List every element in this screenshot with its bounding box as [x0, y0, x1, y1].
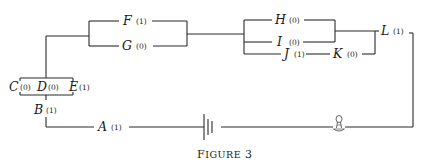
svg-text:(0): (0) [48, 83, 59, 92]
svg-text:(0): (0) [347, 50, 358, 59]
svg-text:(1): (1) [46, 106, 57, 115]
svg-text:(1): (1) [393, 27, 404, 36]
svg-text:(0): (0) [136, 42, 147, 51]
label-a: A (1) [97, 119, 122, 134]
label-e: E (1) [68, 79, 90, 94]
svg-text:(1): (1) [136, 17, 147, 26]
wire-battery-lamp [221, 33, 413, 127]
svg-text:(0): (0) [20, 83, 31, 92]
svg-text:B: B [33, 102, 43, 117]
label-l: L (1) [380, 23, 404, 38]
wire-fg-to-cde [46, 36, 89, 78]
label-d: D (0) [36, 79, 59, 94]
svg-text:C: C [9, 79, 19, 94]
label-c: C (0) [9, 79, 31, 94]
light-bulb-icon [334, 116, 345, 132]
svg-text:J: J [281, 46, 290, 61]
circuit-diagram: F (1) G (0) C (0) D (0) E (1) B (1) A (1… [0, 0, 423, 167]
svg-text:I: I [276, 34, 283, 49]
svg-text:(0): (0) [289, 16, 300, 25]
svg-text:H: H [274, 12, 287, 27]
svg-text:K: K [332, 46, 343, 61]
svg-text:(1): (1) [294, 50, 305, 59]
label-b: B (1) [33, 102, 57, 117]
svg-text:(0): (0) [289, 38, 300, 47]
label-j: J (1) [281, 46, 305, 61]
label-h: H (0) [274, 12, 300, 27]
svg-text:L: L [380, 23, 389, 38]
label-f: F (1) [122, 13, 147, 28]
figure-caption: FIGURE3 [197, 148, 253, 161]
svg-text:F: F [122, 13, 133, 28]
svg-text:D: D [36, 79, 47, 94]
svg-text:E: E [68, 79, 78, 94]
svg-text:A: A [97, 119, 107, 134]
label-g: G (0) [122, 38, 147, 53]
label-k: K (0) [332, 46, 358, 61]
svg-text:G: G [122, 38, 132, 53]
svg-text:(1): (1) [111, 123, 122, 132]
battery-icon [204, 114, 212, 140]
wire-b-a-battery [46, 117, 204, 127]
parallel-block-hij [244, 20, 379, 54]
svg-text:(1): (1) [79, 83, 90, 92]
